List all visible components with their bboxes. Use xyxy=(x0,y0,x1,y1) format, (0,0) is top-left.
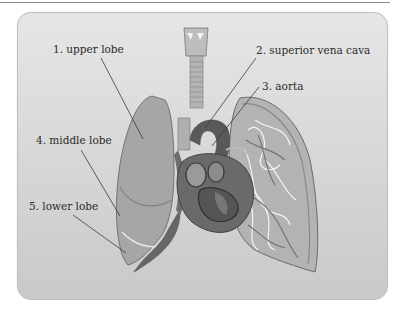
label-lower-lobe: 5. lower lobe xyxy=(29,201,98,212)
label-aorta: 3. aorta xyxy=(262,81,303,92)
leader-upper-lobe xyxy=(101,58,143,139)
label-middle-lobe: 4. middle lobe xyxy=(36,135,112,146)
label-superior-vena-cava: 2. superior vena cava xyxy=(256,45,370,56)
right-lung xyxy=(116,96,185,272)
label-upper-lobe: 1. upper lobe xyxy=(53,44,124,55)
trachea xyxy=(184,28,208,108)
